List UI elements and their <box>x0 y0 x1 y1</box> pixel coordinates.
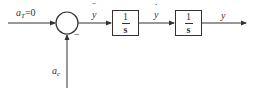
integrator-block-2: 1 s <box>175 10 202 36</box>
block1-denominator: s <box>124 25 128 35</box>
block2-numerator: 1 <box>186 12 191 22</box>
minus-sign: − <box>74 30 80 40</box>
acceleration-label: y <box>92 10 96 20</box>
velocity-symbol: y <box>154 10 158 20</box>
reference-value: =0 <box>25 7 36 18</box>
velocity-label: y <box>154 10 158 20</box>
block-diagram: aT=0 − ac y 1 s y 1 s y <box>0 0 254 89</box>
output-label: y <box>221 11 225 21</box>
acceleration-symbol: y <box>92 10 96 20</box>
disturbance-input-label: ac <box>52 66 60 78</box>
disturbance-subscript: c <box>57 70 60 78</box>
reference-input-label: aT=0 <box>16 8 36 20</box>
block2-denominator: s <box>187 25 191 35</box>
block1-numerator: 1 <box>123 12 128 22</box>
integrator-block-1: 1 s <box>112 10 139 36</box>
